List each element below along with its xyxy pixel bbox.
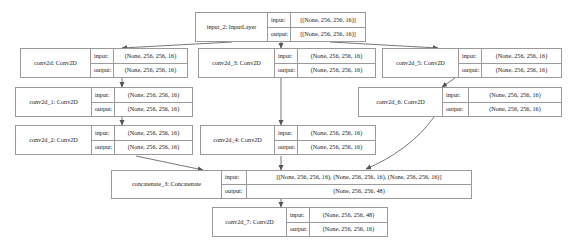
node-conv2d-input-row: input: (None, 256, 256, 16) bbox=[91, 49, 187, 64]
node-conv2d_4-input-shape: (None, 256, 256, 16) bbox=[298, 126, 375, 140]
node-conv2d_3-output-row: output: (None, 256, 256, 16) bbox=[275, 64, 375, 78]
node-input_2[interactable]: input_2: InputLayer input: [(None, 256, … bbox=[195, 12, 366, 42]
input-key: input: bbox=[91, 49, 114, 63]
node-conv2d_4-output-shape: (None, 256, 256, 16) bbox=[298, 141, 375, 155]
node-conv2d_6[interactable]: conv2d_6: Conv2D input: (None, 256, 256,… bbox=[358, 87, 562, 117]
node-conv2d_1-input-shape: (None, 256, 256, 16) bbox=[115, 88, 192, 102]
input-key: input: bbox=[459, 49, 482, 63]
edge-conv2d2-concat bbox=[136, 156, 203, 170]
node-conv2d_3-label: conv2d_3: Conv2D bbox=[199, 49, 275, 77]
input-key: input: bbox=[287, 208, 310, 222]
input-key: input: bbox=[222, 171, 247, 184]
node-conv2d-output-row: output: (None, 256, 256, 16) bbox=[91, 64, 187, 78]
output-key: output: bbox=[268, 28, 291, 42]
node-conv2d_3-output-shape: (None, 256, 256, 16) bbox=[298, 64, 375, 78]
node-conv2d_7-io: input: (None, 256, 256, 48) output: (Non… bbox=[287, 208, 387, 236]
node-conv2d_5[interactable]: conv2d_5: Conv2D input: (None, 256, 256,… bbox=[382, 48, 562, 78]
node-conv2d-output-shape: (None, 256, 256, 16) bbox=[114, 64, 187, 78]
node-conv2d-label: conv2d: Conv2D bbox=[21, 49, 91, 77]
node-conv2d_5-input-row: input: (None, 256, 256, 16) bbox=[459, 49, 561, 64]
node-conv2d_2-output-row: output: (None, 256, 256, 16) bbox=[92, 141, 192, 155]
node-concatenate_3-output-shape: (None, 256, 256, 48) bbox=[247, 185, 471, 198]
node-conv2d_5-output-row: output: (None, 256, 256, 16) bbox=[459, 64, 561, 78]
node-conv2d_6-label: conv2d_6: Conv2D bbox=[359, 88, 443, 116]
node-conv2d_6-input-shape: (None, 256, 256, 16) bbox=[469, 88, 561, 102]
node-conv2d_3-io: input: (None, 256, 256, 16) output: (Non… bbox=[275, 49, 375, 77]
node-input_2-output-row: output: [(None, 256, 256, 16)] bbox=[268, 28, 365, 42]
input-key: input: bbox=[92, 88, 115, 102]
node-conv2d_7-input-row: input: (None, 256, 256, 48) bbox=[287, 208, 387, 223]
node-conv2d_4-io: input: (None, 256, 256, 16) output: (Non… bbox=[275, 126, 375, 154]
node-conv2d_4-input-row: input: (None, 256, 256, 16) bbox=[275, 126, 375, 141]
node-conv2d_7-output-row: output: (None, 256, 256, 16) bbox=[287, 223, 387, 237]
node-conv2d_5-label: conv2d_5: Conv2D bbox=[383, 49, 459, 77]
node-conv2d_7-output-shape: (None, 256, 256, 16) bbox=[310, 223, 387, 237]
node-conv2d_6-io: input: (None, 256, 256, 16) output: (Non… bbox=[443, 88, 561, 116]
node-conv2d_5-io: input: (None, 256, 256, 16) output: (Non… bbox=[459, 49, 561, 77]
output-key: output: bbox=[222, 185, 247, 198]
node-conv2d_6-output-shape: (None, 256, 256, 16) bbox=[469, 103, 561, 117]
node-input_2-input-row: input: [(None, 256, 256, 16)] bbox=[268, 13, 365, 28]
node-conv2d[interactable]: conv2d: Conv2D input: (None, 256, 256, 1… bbox=[20, 48, 188, 78]
node-conv2d_5-output-shape: (None, 256, 256, 16) bbox=[482, 64, 561, 78]
output-key: output: bbox=[287, 223, 310, 237]
output-key: output: bbox=[92, 141, 115, 155]
node-conv2d_2-label: conv2d_2: Conv2D bbox=[16, 126, 92, 154]
node-conv2d_1-label: conv2d_1: Conv2D bbox=[16, 88, 92, 116]
node-conv2d_1-output-row: output: (None, 256, 256, 16) bbox=[92, 103, 192, 117]
node-conv2d_2[interactable]: conv2d_2: Conv2D input: (None, 256, 256,… bbox=[15, 125, 193, 155]
node-conv2d_1-output-shape: (None, 256, 256, 16) bbox=[115, 103, 192, 117]
model-graph-canvas: input_2: InputLayer input: [(None, 256, … bbox=[0, 0, 571, 244]
node-conv2d_4-label: conv2d_4: Conv2D bbox=[201, 126, 275, 154]
node-conv2d_4[interactable]: conv2d_4: Conv2D input: (None, 256, 256,… bbox=[200, 125, 376, 155]
output-key: output: bbox=[459, 64, 482, 78]
input-key: input: bbox=[92, 126, 115, 140]
node-conv2d_1[interactable]: conv2d_1: Conv2D input: (None, 256, 256,… bbox=[15, 87, 193, 117]
node-concatenate_3-input-row: input: [(None, 256, 256, 16), (None, 256… bbox=[222, 171, 471, 185]
node-conv2d_2-output-shape: (None, 256, 256, 16) bbox=[115, 141, 192, 155]
node-concatenate_3-io: input: [(None, 256, 256, 16), (None, 256… bbox=[222, 171, 471, 198]
node-conv2d_7[interactable]: conv2d_7: Conv2D input: (None, 256, 256,… bbox=[212, 207, 388, 237]
output-key: output: bbox=[91, 64, 114, 78]
edge-conv2d5-conv2d6 bbox=[442, 78, 455, 87]
output-key: output: bbox=[275, 64, 298, 78]
node-conv2d_7-input-shape: (None, 256, 256, 48) bbox=[310, 208, 387, 222]
node-input_2-label: input_2: InputLayer bbox=[196, 13, 268, 41]
node-conv2d_7-label: conv2d_7: Conv2D bbox=[213, 208, 287, 236]
node-conv2d-input-shape: (None, 256, 256, 16) bbox=[114, 49, 187, 63]
node-concatenate_3-label: concatenate_3: Concatenate bbox=[112, 171, 222, 198]
edge-conv2d6-concat bbox=[366, 117, 434, 169]
node-conv2d_3-input-row: input: (None, 256, 256, 16) bbox=[275, 49, 375, 64]
node-conv2d_6-output-row: output: (None, 256, 256, 16) bbox=[443, 103, 561, 117]
node-conv2d_2-io: input: (None, 256, 256, 16) output: (Non… bbox=[92, 126, 192, 154]
node-input_2-input-shape: [(None, 256, 256, 16)] bbox=[291, 13, 365, 27]
input-key: input: bbox=[275, 126, 298, 140]
node-conv2d_6-input-row: input: (None, 256, 256, 16) bbox=[443, 88, 561, 103]
node-conv2d_3[interactable]: conv2d_3: Conv2D input: (None, 256, 256,… bbox=[198, 48, 376, 78]
node-conv2d_5-input-shape: (None, 256, 256, 16) bbox=[482, 49, 561, 63]
node-conv2d_4-output-row: output: (None, 256, 256, 16) bbox=[275, 141, 375, 155]
node-concatenate_3-output-row: output: (None, 256, 256, 48) bbox=[222, 185, 471, 198]
output-key: output: bbox=[443, 103, 469, 117]
node-conv2d-io: input: (None, 256, 256, 16) output: (Non… bbox=[91, 49, 187, 77]
input-key: input: bbox=[275, 49, 298, 63]
node-conv2d_2-input-shape: (None, 256, 256, 16) bbox=[115, 126, 192, 140]
node-conv2d_2-input-row: input: (None, 256, 256, 16) bbox=[92, 126, 192, 141]
node-conv2d_1-io: input: (None, 256, 256, 16) output: (Non… bbox=[92, 88, 192, 116]
node-concatenate_3-input-shape: [(None, 256, 256, 16), (None, 256, 256, … bbox=[247, 171, 471, 184]
node-input_2-io: input: [(None, 256, 256, 16)] output: [(… bbox=[268, 13, 365, 41]
node-conv2d_1-input-row: input: (None, 256, 256, 16) bbox=[92, 88, 192, 103]
node-conv2d_3-input-shape: (None, 256, 256, 16) bbox=[298, 49, 375, 63]
node-concatenate_3[interactable]: concatenate_3: Concatenate input: [(None… bbox=[111, 170, 472, 199]
output-key: output: bbox=[275, 141, 298, 155]
input-key: input: bbox=[443, 88, 469, 102]
output-key: output: bbox=[92, 103, 115, 117]
input-key: input: bbox=[268, 13, 291, 27]
node-input_2-output-shape: [(None, 256, 256, 16)] bbox=[291, 28, 365, 42]
